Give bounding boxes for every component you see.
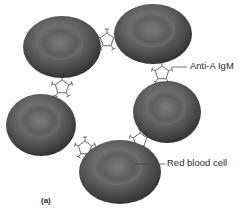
red-blood-cell-1 xyxy=(23,16,101,78)
igm-antibody-3 xyxy=(52,76,73,97)
red-blood-cell-2 xyxy=(114,4,192,64)
red-blood-cell-5 xyxy=(79,140,161,204)
red-blood-cell-4 xyxy=(133,81,201,143)
panel-label: (a) xyxy=(41,196,51,205)
red-blood-cell-3 xyxy=(6,94,76,156)
label-red-blood-cell: Red blood cell xyxy=(167,157,227,168)
label-anti-a-igm: Anti-A IgM xyxy=(190,60,234,71)
igm-antibody-2 xyxy=(152,62,173,83)
agglutination-diagram xyxy=(0,0,245,216)
